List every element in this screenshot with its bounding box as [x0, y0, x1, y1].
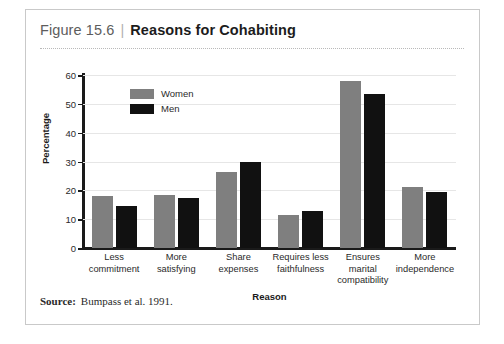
x-axis-category-label: Lesscommitment — [83, 252, 145, 287]
y-axis-ticks: 0102030405060 — [26, 55, 76, 285]
legend-item[interactable]: Women — [130, 88, 194, 99]
y-axis-tick-label: 60 — [46, 70, 76, 81]
source-text: Bumpass et al. 1991. — [81, 295, 173, 307]
bar-women[interactable] — [92, 196, 113, 248]
y-axis-title: Percentage — [40, 113, 51, 164]
y-axis-tick-label: 10 — [46, 214, 76, 225]
legend-item[interactable]: Men — [130, 103, 194, 114]
bar-men[interactable] — [116, 206, 137, 248]
bar-group — [394, 75, 456, 248]
x-axis-category-label: Requires lessfaithfulness — [270, 252, 332, 287]
x-axis-category-label: Moreindependence — [394, 252, 456, 287]
y-axis-tick-label: 20 — [46, 185, 76, 196]
bar-group — [270, 75, 332, 248]
figure-card: Figure 15.6 | Reasons for Cohabiting 010… — [25, 9, 480, 325]
bar-men[interactable] — [178, 198, 199, 248]
x-axis-category-label: Ensuresmaritalcompatibility — [332, 252, 394, 287]
bar-group — [332, 75, 394, 248]
bar-men[interactable] — [302, 211, 323, 248]
bar-women[interactable] — [278, 215, 299, 248]
x-axis-category-label: Shareexpenses — [207, 252, 269, 287]
legend-swatch — [130, 104, 154, 114]
source-line: Source:Bumpass et al. 1991. — [40, 295, 173, 307]
legend: WomenMen — [130, 88, 194, 118]
bar-women[interactable] — [216, 172, 237, 248]
bar-men[interactable] — [364, 94, 385, 248]
figure-number: Figure 15.6 — [40, 22, 114, 38]
title-divider — [40, 48, 464, 49]
bar-chart: 0102030405060 Percentage LesscommitmentM… — [26, 55, 481, 285]
legend-label: Men — [161, 103, 179, 114]
bar-men[interactable] — [426, 192, 447, 248]
bar-women[interactable] — [402, 187, 423, 248]
figure-title: Reasons for Cohabiting — [130, 22, 296, 38]
bar-men[interactable] — [240, 162, 261, 249]
bar-women[interactable] — [154, 195, 175, 248]
x-axis-category-label: Moresatisfying — [145, 252, 207, 287]
title-separator: | — [120, 22, 124, 38]
bar-group — [207, 75, 269, 248]
y-axis-tick-label: 50 — [46, 98, 76, 109]
x-axis-category-labels: LesscommitmentMoresatisfyingShareexpense… — [83, 252, 456, 287]
legend-label: Women — [161, 88, 194, 99]
source-label: Source: — [40, 295, 76, 307]
y-axis-tick-label: 0 — [46, 243, 76, 254]
legend-swatch — [130, 89, 154, 99]
bar-women[interactable] — [340, 81, 361, 248]
figure-heading: Figure 15.6 | Reasons for Cohabiting — [40, 22, 296, 38]
